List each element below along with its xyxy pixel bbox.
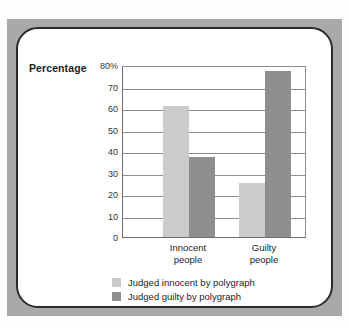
y-axis-tick-labels: 01020304050607080% bbox=[76, 66, 118, 238]
y-axis-tick-label: 60 bbox=[78, 105, 118, 114]
legend-swatch-icon bbox=[112, 292, 121, 301]
y-axis-tick-label: 10 bbox=[78, 213, 118, 222]
y-axis-tick-label: 50 bbox=[78, 127, 118, 136]
chart-legend: Judged innocent by polygraphJudged guilt… bbox=[112, 276, 255, 304]
y-axis-tick-label: 0 bbox=[78, 234, 118, 243]
y-axis-tick-label: 80% bbox=[78, 62, 118, 71]
y-axis-tick-label: 40 bbox=[78, 148, 118, 157]
x-axis-category-label: Guiltypeople bbox=[224, 242, 304, 265]
legend-item: Judged guilty by polygraph bbox=[112, 290, 255, 303]
legend-item: Judged innocent by polygraph bbox=[112, 276, 255, 289]
bar bbox=[189, 157, 215, 237]
legend-label: Judged guilty by polygraph bbox=[128, 291, 241, 302]
bar bbox=[239, 183, 265, 237]
y-axis-tick-label: 20 bbox=[78, 191, 118, 200]
bar bbox=[163, 106, 189, 237]
y-axis-tick-label: 30 bbox=[78, 170, 118, 179]
plot-area bbox=[122, 66, 306, 238]
bar bbox=[265, 71, 291, 237]
legend-label: Judged innocent by polygraph bbox=[128, 277, 255, 288]
legend-swatch-icon bbox=[112, 278, 121, 287]
x-axis-category-label: Innocentpeople bbox=[148, 242, 228, 265]
y-axis-tick-label: 70 bbox=[78, 84, 118, 93]
